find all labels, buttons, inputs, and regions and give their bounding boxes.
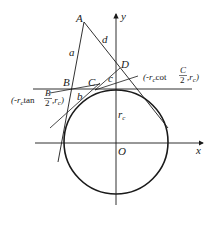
point-c-label: C — [88, 76, 96, 88]
svg-text:(-rccot: (-rccot — [143, 72, 167, 84]
point-d-label: D — [120, 58, 129, 70]
svg-text:,rc): ,rc) — [187, 72, 199, 84]
svg-text:C: C — [180, 65, 187, 75]
excircle-diagram: A y d a D c B C b rc O x (-rccot C 2 ,rc… — [0, 0, 215, 225]
svg-text:,rc): ,rc) — [52, 95, 64, 107]
segment-b-label: b — [77, 90, 83, 102]
y-axis-label: y — [120, 10, 126, 22]
svg-text:2: 2 — [180, 75, 185, 85]
svg-text:(-rctan: (-rctan — [11, 95, 35, 107]
coord-label-tan: (-rctan B 2 ,rc) — [11, 88, 64, 108]
coord-label-cot: (-rccot C 2 ,rc) — [143, 65, 199, 85]
segment-a-label: a — [69, 46, 75, 58]
point-a-label: A — [75, 12, 83, 24]
svg-text:B: B — [45, 88, 51, 98]
x-axis-label: x — [195, 144, 201, 156]
diagram-svg: A y d a D c B C b rc O x (-rccot C 2 ,rc… — [0, 0, 215, 225]
segment-c-cot — [95, 76, 138, 90]
radius-label: rc — [118, 108, 126, 122]
segment-c-label: c — [108, 72, 113, 84]
segment-d-label: d — [102, 33, 108, 45]
point-b-label: B — [63, 76, 70, 88]
origin-label: O — [118, 145, 126, 157]
svg-text:2: 2 — [45, 98, 50, 108]
